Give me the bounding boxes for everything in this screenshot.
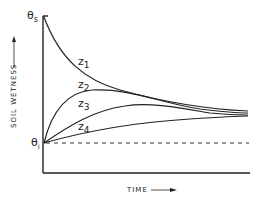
z1-label: z1 — [78, 55, 90, 70]
z2-label: z2 — [78, 78, 90, 93]
theta-i-label: θi — [31, 136, 40, 151]
x-axis-label: TIME — [126, 186, 148, 194]
x-axis-title: TIME — [126, 186, 177, 194]
y-axis-label: SOIL WETNESS — [10, 64, 18, 128]
y-axis-arrow-head-icon — [12, 36, 16, 42]
z3-label: z3 — [78, 97, 90, 112]
z4-label: z4 — [78, 120, 90, 135]
soil-wetness-diagram: θs θi z1 z2 z3 z4 SOIL WETNESS TIME — [0, 0, 260, 201]
y-axis-title: SOIL WETNESS — [10, 36, 18, 128]
theta-s-label: θs — [27, 9, 38, 24]
x-axis-arrow-head-icon — [170, 188, 177, 192]
curve-z4 — [44, 116, 248, 143]
